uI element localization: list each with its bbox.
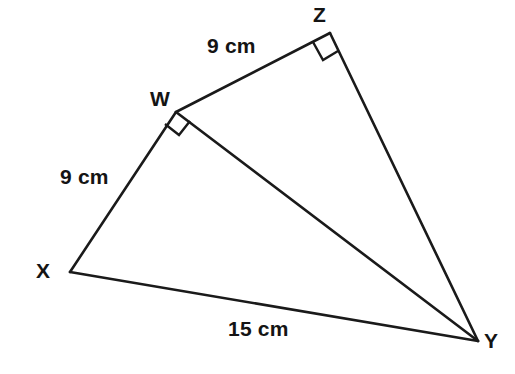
segment-WY bbox=[176, 112, 478, 341]
side-label-XY: 15 cm bbox=[228, 318, 289, 339]
side-label-WZ: 9 cm bbox=[207, 35, 256, 56]
vertex-label-X: X bbox=[36, 260, 50, 281]
segment-XW bbox=[70, 112, 176, 272]
segment-ZY bbox=[330, 33, 478, 341]
geometry-diagram: W X Y Z 9 cm 9 cm 15 cm bbox=[0, 0, 515, 374]
vertex-label-Z: Z bbox=[313, 4, 326, 25]
vertex-label-Y: Y bbox=[484, 330, 498, 351]
vertex-label-W: W bbox=[150, 88, 170, 109]
side-label-XW: 9 cm bbox=[60, 166, 109, 187]
